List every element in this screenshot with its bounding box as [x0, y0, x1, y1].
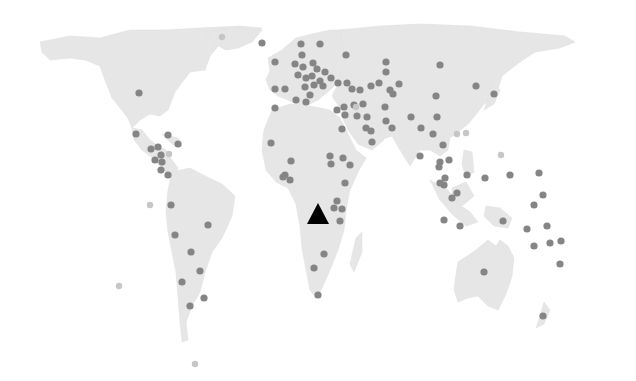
map-marker[interactable] [556, 260, 563, 267]
map-marker[interactable] [530, 201, 537, 208]
map-marker[interactable] [499, 217, 506, 224]
map-marker[interactable] [368, 138, 375, 145]
map-marker[interactable] [327, 160, 334, 167]
map-marker[interactable] [186, 302, 193, 309]
map-marker[interactable] [363, 113, 370, 120]
map-marker[interactable] [338, 205, 345, 212]
map-marker[interactable] [321, 68, 328, 75]
map-marker[interactable] [456, 222, 463, 229]
map-marker[interactable] [340, 103, 347, 110]
map-marker[interactable] [164, 171, 171, 178]
map-marker[interactable] [306, 91, 313, 98]
map-marker[interactable] [338, 125, 345, 132]
map-marker[interactable] [356, 86, 363, 93]
map-marker[interactable] [301, 83, 308, 90]
map-marker[interactable] [535, 169, 542, 176]
map-marker[interactable] [429, 130, 436, 137]
map-marker[interactable] [341, 179, 348, 186]
map-marker[interactable] [336, 217, 343, 224]
map-marker[interactable] [480, 268, 487, 275]
map-marker[interactable] [196, 267, 203, 274]
map-marker[interactable] [539, 191, 546, 198]
map-marker[interactable] [297, 40, 304, 47]
map-marker[interactable] [339, 154, 346, 161]
map-marker[interactable] [546, 239, 553, 246]
map-marker[interactable] [158, 158, 165, 165]
map-marker[interactable] [348, 85, 355, 92]
map-marker[interactable] [151, 156, 158, 163]
map-marker[interactable] [367, 82, 374, 89]
map-marker[interactable] [472, 82, 479, 89]
map-marker[interactable] [367, 127, 374, 134]
map-marker[interactable] [178, 278, 185, 285]
map-marker[interactable] [439, 141, 446, 148]
map-marker[interactable] [481, 174, 488, 181]
map-marker[interactable] [445, 156, 452, 163]
map-marker[interactable] [333, 106, 340, 113]
map-marker[interactable] [291, 60, 298, 67]
map-marker[interactable] [310, 264, 317, 271]
map-marker[interactable] [271, 58, 278, 65]
map-marker[interactable] [353, 112, 360, 119]
map-marker-light[interactable] [353, 104, 359, 110]
map-marker[interactable] [147, 145, 154, 152]
map-marker[interactable] [523, 225, 530, 232]
map-marker[interactable] [330, 204, 337, 211]
map-marker[interactable] [341, 111, 348, 118]
map-marker[interactable] [382, 58, 389, 65]
map-marker[interactable] [375, 79, 382, 86]
map-marker[interactable] [557, 237, 564, 244]
map-marker[interactable] [298, 51, 305, 58]
map-marker-light[interactable] [166, 151, 172, 157]
map-marker[interactable] [333, 197, 340, 204]
map-marker[interactable] [343, 79, 350, 86]
map-marker[interactable] [135, 89, 142, 96]
map-marker[interactable] [381, 103, 388, 110]
map-marker[interactable] [258, 39, 265, 46]
map-marker[interactable] [440, 216, 447, 223]
map-marker-light[interactable] [116, 283, 122, 289]
map-marker[interactable] [543, 222, 550, 229]
map-marker[interactable] [308, 72, 315, 79]
map-marker[interactable] [200, 294, 207, 301]
map-marker[interactable] [539, 312, 546, 319]
map-marker[interactable] [448, 194, 455, 201]
map-marker[interactable] [286, 176, 293, 183]
map-marker[interactable] [346, 161, 353, 168]
map-marker[interactable] [506, 171, 513, 178]
map-marker[interactable] [432, 92, 439, 99]
map-marker[interactable] [433, 113, 440, 120]
map-marker[interactable] [302, 98, 309, 105]
map-marker[interactable] [314, 291, 321, 298]
map-marker-light[interactable] [219, 34, 225, 40]
map-marker[interactable] [316, 40, 323, 47]
map-marker[interactable] [267, 139, 274, 146]
map-marker[interactable] [309, 59, 316, 66]
map-marker[interactable] [436, 61, 443, 68]
map-marker[interactable] [154, 143, 161, 150]
map-marker[interactable] [271, 104, 278, 111]
map-marker-light[interactable] [147, 202, 153, 208]
map-marker[interactable] [174, 140, 181, 147]
map-marker[interactable] [407, 113, 414, 120]
map-marker[interactable] [132, 130, 139, 137]
map-marker[interactable] [299, 63, 306, 70]
map-marker[interactable] [327, 74, 334, 81]
map-marker[interactable] [319, 82, 326, 89]
map-marker[interactable] [279, 173, 286, 180]
map-marker[interactable] [171, 231, 178, 238]
map-marker-light[interactable] [463, 130, 469, 136]
map-marker[interactable] [417, 124, 424, 131]
map-marker[interactable] [530, 242, 537, 249]
map-marker[interactable] [416, 152, 423, 159]
map-marker[interactable] [388, 124, 395, 131]
map-marker[interactable] [164, 131, 171, 138]
map-marker[interactable] [310, 81, 317, 88]
map-marker[interactable] [204, 221, 211, 228]
map-marker[interactable] [313, 65, 320, 72]
map-marker[interactable] [463, 171, 470, 178]
map-marker[interactable] [287, 157, 294, 164]
map-marker[interactable] [326, 152, 333, 159]
map-marker[interactable] [435, 163, 442, 170]
map-marker[interactable] [167, 201, 174, 208]
